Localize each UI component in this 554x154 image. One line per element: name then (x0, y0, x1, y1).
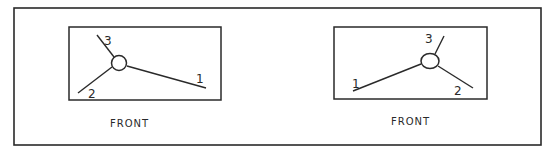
arm-3 (435, 36, 444, 54)
label-1: 1 (352, 77, 360, 91)
label-1: 1 (196, 72, 204, 86)
hub-circle (421, 54, 439, 69)
diagram-canvas: 3 2 1 FRONT 3 1 2 FRONT (0, 0, 554, 154)
label-2: 2 (454, 84, 462, 98)
outer-frame (14, 8, 541, 145)
arm-1 (127, 66, 206, 88)
label-3: 3 (425, 32, 433, 46)
label-2: 2 (88, 87, 96, 101)
label-3: 3 (104, 34, 112, 48)
hub-circle (112, 56, 127, 71)
arm-1 (353, 64, 421, 91)
panel-right: 3 1 2 FRONT (334, 27, 487, 127)
caption-front: FRONT (391, 116, 430, 127)
panel-left: 3 2 1 FRONT (69, 27, 221, 129)
caption-front: FRONT (110, 118, 149, 129)
